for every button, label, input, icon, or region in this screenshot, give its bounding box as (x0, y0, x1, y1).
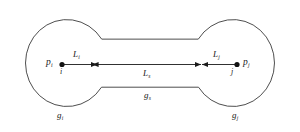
region-label-gs: gs (144, 91, 151, 100)
node-label-left-sub: i (51, 62, 53, 68)
node-index-left: i (60, 68, 62, 76)
edge-label-Ls: Ls (143, 69, 150, 78)
diagram-canvas (0, 0, 300, 132)
node-label-right-sub: j (248, 62, 250, 68)
region-label-gi-sub: i (62, 115, 64, 121)
node-label-right: pj (243, 58, 249, 68)
region-label-gi: gi (57, 111, 63, 120)
region-label-gj: gj (232, 111, 238, 120)
region-label-gj-base: g (232, 110, 237, 120)
edge-label-Ls-sub: s (148, 73, 150, 79)
edge-label-Li: Li (73, 50, 80, 59)
region-label-gi-base: g (57, 110, 62, 120)
region-label-gs-base: g (144, 90, 149, 100)
node-index-right: j (231, 68, 233, 76)
region-label-gj-sub: j (237, 115, 239, 121)
edge-label-Lj: Lj (213, 50, 220, 59)
node-label-left: pi (46, 58, 52, 68)
edge-label-Lj-sub: j (218, 54, 220, 60)
edge-label-Li-sub: i (78, 54, 80, 60)
dumbbell-diagram: pi i Li Ls Lj j pj gs gi gj (0, 0, 300, 132)
region-label-gs-sub: s (149, 95, 151, 101)
